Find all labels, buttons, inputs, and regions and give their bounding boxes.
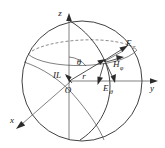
- Etheta-label-group: E θ: [102, 83, 113, 95]
- origin-marker: [69, 80, 71, 82]
- z-axis-arrowhead: [66, 13, 72, 21]
- Etheta-label-base: E: [102, 83, 109, 93]
- meridian-curve-front: [70, 21, 110, 140]
- latitude-ellipse-back-hidden: [28, 40, 137, 54]
- radius-vector-r: [71, 62, 101, 80]
- spherical-coordinate-diagram: z y x O IL θ r E r H φ E θ: [0, 0, 165, 148]
- Er-label-base: E: [125, 38, 132, 48]
- Hphi-label-group: H φ: [112, 59, 124, 71]
- meridian-curve-left: [24, 62, 104, 140]
- Etheta-label-subscript: θ: [110, 89, 113, 95]
- figure-container: z y x O IL θ r E r H φ E θ: [0, 0, 165, 148]
- Hphi-label-subscript: φ: [120, 65, 124, 71]
- z-axis-label: z: [57, 8, 62, 18]
- radius-label-r: r: [82, 71, 86, 81]
- theta-angle-label: θ: [77, 57, 82, 67]
- source-label-IL: IL: [52, 70, 61, 80]
- Hphi-label-base: H: [112, 59, 120, 69]
- x-axis-line: [22, 82, 70, 124]
- source-current-element-arrowhead: [65, 74, 72, 81]
- y-axis-label: y: [149, 83, 154, 93]
- field-point-marker: [104, 60, 106, 62]
- origin-label: O: [65, 85, 72, 95]
- Er-label-group: E r: [125, 38, 136, 50]
- x-axis-label: x: [9, 115, 14, 125]
